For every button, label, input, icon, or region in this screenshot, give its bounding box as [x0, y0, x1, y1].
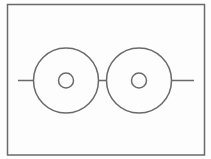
- diagram-canvas: [0, 0, 211, 159]
- left-disc-hub-circle: [59, 73, 74, 88]
- left-disc: [34, 48, 99, 113]
- right-disc: [107, 48, 172, 113]
- right-disc-outer-circle: [107, 48, 172, 113]
- right-disc-hub-circle: [132, 73, 147, 88]
- two-reels-diagram: [0, 0, 211, 159]
- left-disc-outer-circle: [34, 48, 99, 113]
